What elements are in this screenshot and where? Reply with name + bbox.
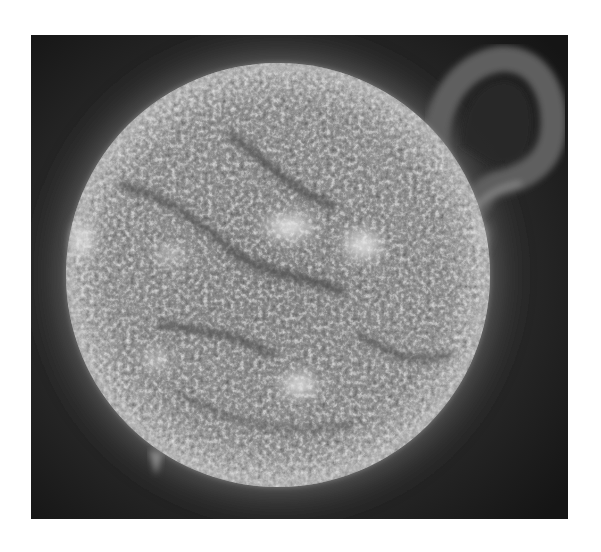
sun-photograph: Sun disk in grayscale with bright active…	[31, 35, 568, 519]
image-noise	[31, 35, 568, 519]
sun-image-svg	[31, 35, 568, 519]
